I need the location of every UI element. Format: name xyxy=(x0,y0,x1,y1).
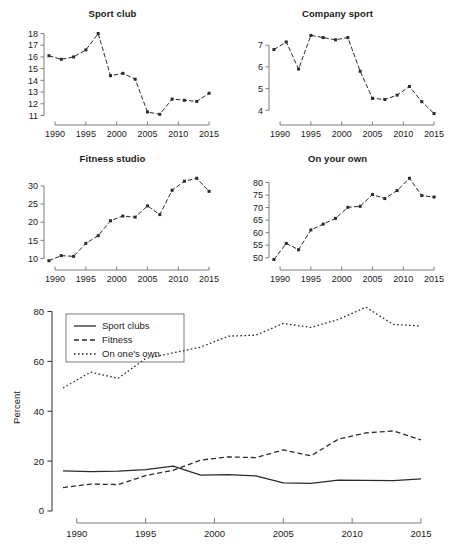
x-axis-tick-label: 2000 xyxy=(332,129,352,139)
x-axis-tick-label: 1990 xyxy=(270,129,290,139)
x-axis-tick-label: 1990 xyxy=(45,129,65,139)
data-point-marker xyxy=(297,68,300,71)
x-axis-tick-label: 2010 xyxy=(393,274,413,284)
data-point-marker xyxy=(47,259,50,262)
data-point-marker xyxy=(396,94,399,97)
data-point-marker xyxy=(334,38,337,41)
x-axis-tick-label: 2015 xyxy=(424,129,444,139)
multi-panel-figure: Sport club 11121314151617181990199520002… xyxy=(0,0,450,549)
x-axis-tick-label: 2000 xyxy=(107,274,127,284)
y-axis-tick-label: 75 xyxy=(253,190,263,200)
x-axis-tick-label: 1995 xyxy=(301,129,321,139)
x-axis-tick-label: 2005 xyxy=(137,129,157,139)
legend-label-2: On one's own xyxy=(102,348,160,359)
legend-label-1: Fitness xyxy=(102,334,133,345)
data-point-marker xyxy=(109,74,112,77)
data-point-marker xyxy=(309,228,312,231)
y-axis-tick-label: 60 xyxy=(253,228,263,238)
plot-fitness-studio: 1015202530199019952000200520102015 xyxy=(0,145,225,290)
y-axis-tick-label: 14 xyxy=(28,76,38,86)
y-axis-tick-label: 0 xyxy=(39,505,44,516)
y-axis-tick-label: 20 xyxy=(28,217,38,227)
data-point-marker xyxy=(72,55,75,58)
y-axis-tick-label: 55 xyxy=(253,240,263,250)
plot-sport-club: 1112131415161718199019952000200520102015 xyxy=(0,0,225,145)
y-axis-tick-label: 5 xyxy=(258,84,263,94)
data-point-marker xyxy=(72,255,75,258)
series-line xyxy=(49,34,209,115)
data-point-marker xyxy=(47,54,50,57)
data-point-marker xyxy=(346,36,349,39)
plot-combined: 020406080Percent199019952000200520102015… xyxy=(0,290,450,549)
y-axis-tick-label: 50 xyxy=(253,253,263,263)
y-axis-tick-label: 6 xyxy=(258,62,263,72)
y-axis-tick-label: 10 xyxy=(28,254,38,264)
x-axis-tick-label: 2015 xyxy=(199,274,219,284)
y-axis-tick-label: 11 xyxy=(29,111,38,121)
y-axis-tick-label: 80 xyxy=(253,178,263,188)
x-axis-tick-label: 2015 xyxy=(424,274,444,284)
y-axis-tick-label: 12 xyxy=(28,99,38,109)
data-point-marker xyxy=(433,196,436,199)
data-point-marker xyxy=(433,112,436,115)
data-point-marker xyxy=(208,190,211,193)
y-axis-tick-label: 70 xyxy=(253,203,263,213)
data-point-marker xyxy=(146,204,149,207)
x-axis-tick-label: 2005 xyxy=(137,274,157,284)
x-axis-tick-label: 2005 xyxy=(362,274,382,284)
panel-title-sport-club: Sport club xyxy=(0,8,225,19)
x-axis-tick-label: 2010 xyxy=(393,129,413,139)
x-axis-tick-label: 1990 xyxy=(270,274,290,284)
data-point-marker xyxy=(97,234,100,237)
data-point-marker xyxy=(359,70,362,73)
data-point-marker xyxy=(146,110,149,113)
data-point-marker xyxy=(195,177,198,180)
data-point-marker xyxy=(420,194,423,197)
x-axis-tick-label: 2000 xyxy=(204,528,225,539)
data-point-marker xyxy=(195,100,198,103)
x-axis-tick-label: 2005 xyxy=(362,129,382,139)
panel-company-sport: Company sport 45671990199520002005201020… xyxy=(225,0,450,145)
panel-title-company-sport: Company sport xyxy=(225,8,450,19)
plot-on-your-own: 50556065707580199019952000200520102015 xyxy=(225,145,450,290)
x-axis-tick-label: 2015 xyxy=(410,528,431,539)
x-axis-tick-label: 1995 xyxy=(301,274,321,284)
x-axis-tick-label: 2015 xyxy=(199,129,219,139)
y-axis-tick-label: 30 xyxy=(28,181,38,191)
data-point-marker xyxy=(134,216,137,219)
data-point-marker xyxy=(121,72,124,75)
series-line xyxy=(49,178,209,260)
data-point-marker xyxy=(134,78,137,81)
data-point-marker xyxy=(121,215,124,218)
data-point-marker xyxy=(272,48,275,51)
x-axis-tick-label: 1995 xyxy=(135,528,156,539)
data-point-marker xyxy=(420,100,423,103)
data-point-marker xyxy=(408,177,411,180)
y-axis-tick-label: 16 xyxy=(28,52,38,62)
data-point-marker xyxy=(84,242,87,245)
series-line xyxy=(274,35,434,113)
x-axis-tick-label: 2010 xyxy=(342,528,363,539)
data-point-marker xyxy=(359,205,362,208)
panel-title-fitness-studio: Fitness studio xyxy=(0,153,225,164)
data-point-marker xyxy=(60,58,63,61)
x-axis-tick-label: 2010 xyxy=(168,274,188,284)
panel-combined: 020406080Percent199019952000200520102015… xyxy=(0,290,450,549)
y-axis-tick-label: 65 xyxy=(253,215,263,225)
y-axis-tick-label: 17 xyxy=(28,40,38,50)
series-line-1 xyxy=(63,431,421,488)
data-point-marker xyxy=(297,248,300,251)
data-point-marker xyxy=(309,34,312,37)
y-axis-tick-label: 7 xyxy=(258,40,263,50)
data-point-marker xyxy=(285,40,288,43)
y-axis-tick-label: 4 xyxy=(258,106,263,116)
panel-sport-club: Sport club 11121314151617181990199520002… xyxy=(0,0,225,145)
data-point-marker xyxy=(346,206,349,209)
panel-fitness-studio: Fitness studio 1015202530199019952000200… xyxy=(0,145,225,290)
y-axis-tick-label: 15 xyxy=(28,236,38,246)
data-point-marker xyxy=(408,85,411,88)
data-point-marker xyxy=(383,98,386,101)
x-axis-tick-label: 1990 xyxy=(66,528,87,539)
x-axis-tick-label: 2000 xyxy=(107,129,127,139)
data-point-marker xyxy=(158,213,161,216)
